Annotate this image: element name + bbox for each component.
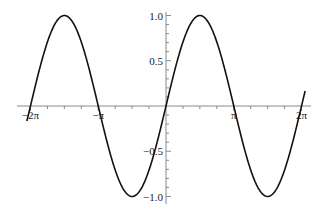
axes [17, 12, 311, 204]
sine-plot: −2π−ππ2π1.00.5−0.5−1.0 [0, 0, 321, 217]
y-tick-label: −1.0 [143, 191, 163, 203]
y-tick-label: 0.5 [149, 55, 163, 67]
x-tick-label: −2π [22, 109, 40, 121]
x-tick-label: −π [92, 109, 104, 121]
y-tick-label: 1.0 [149, 10, 163, 22]
